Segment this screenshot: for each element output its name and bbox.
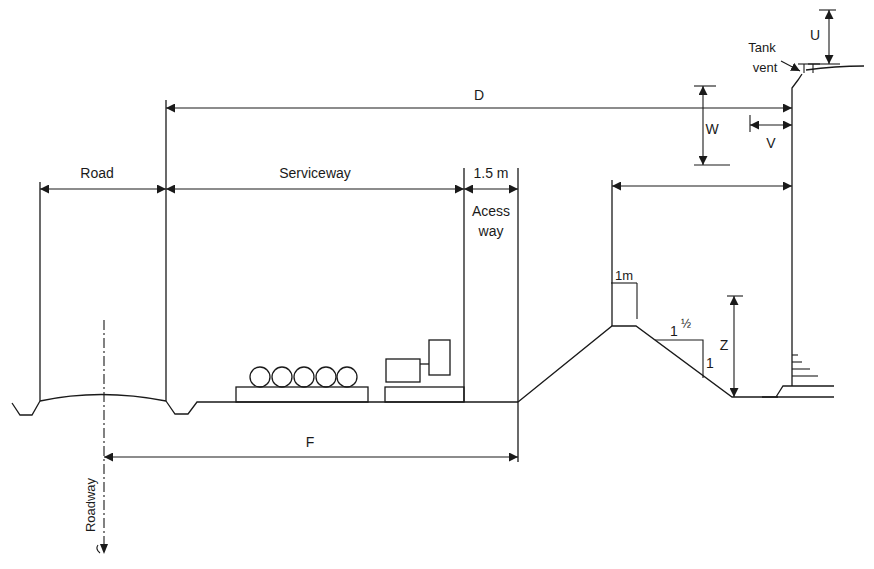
- label-bund-top: 1m: [615, 268, 633, 283]
- label-slope-horizontal: 1: [670, 323, 678, 339]
- dimension-d: D: [166, 87, 792, 108]
- site-cross-section-diagram: Road Serviceway 1.5 m Acess way D W V: [0, 0, 874, 569]
- dimension-v: V: [750, 115, 792, 151]
- label-slope-fraction: ½: [681, 317, 691, 331]
- label-w: W: [705, 121, 719, 137]
- dimension-f: F: [104, 434, 518, 457]
- label-tank-vent-line1: Tank: [748, 40, 776, 55]
- dimension-z: Z: [720, 296, 743, 397]
- dimension-bund-top: 1m: [611, 268, 637, 319]
- label-access-width: 1.5 m: [473, 165, 508, 181]
- dimension-access-way: 1.5 m Acess way: [464, 165, 518, 239]
- pump-unit: [385, 340, 464, 402]
- label-slope-vertical: 1: [706, 355, 714, 371]
- slope-indicator: 1 ½ 1: [655, 317, 714, 378]
- label-d: D: [474, 87, 484, 103]
- liquid-level-marks: [792, 355, 818, 376]
- label-z: Z: [720, 337, 729, 353]
- label-access-line2: way: [478, 223, 504, 239]
- label-f: F: [306, 434, 315, 450]
- roadway-centerline: Roadway: [83, 320, 108, 554]
- label-serviceway: Serviceway: [279, 165, 351, 181]
- dimension-w: W: [694, 86, 730, 165]
- dimension-serviceway: Serviceway: [166, 165, 464, 189]
- tank-vent: [781, 61, 820, 73]
- pipe-rack: [236, 367, 368, 402]
- label-roadway: Roadway: [83, 477, 98, 532]
- label-access-line1: Acess: [472, 203, 510, 219]
- dimension-road: Road: [40, 165, 166, 189]
- label-v: V: [766, 135, 776, 151]
- dimension-u: U: [808, 10, 840, 64]
- label-road: Road: [80, 165, 113, 181]
- label-u: U: [810, 27, 820, 43]
- label-tank-vent-line2: vent: [753, 60, 778, 75]
